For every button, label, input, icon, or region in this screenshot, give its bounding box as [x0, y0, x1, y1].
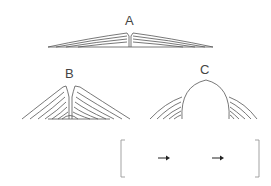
arrow-right-icon — [158, 156, 170, 161]
volcano-a-shield — [48, 33, 213, 47]
answer-box — [121, 140, 259, 177]
sequence-arrows — [158, 156, 224, 161]
label-c: C — [200, 63, 209, 76]
label-b: B — [65, 67, 74, 80]
label-a: A — [125, 14, 134, 27]
left-bracket — [121, 140, 125, 177]
arrow-right-icon — [212, 156, 224, 161]
volcano-diagram — [0, 0, 271, 186]
right-bracket — [255, 140, 259, 177]
volcano-c-dome — [150, 80, 257, 119]
volcano-b-strato — [22, 86, 130, 119]
